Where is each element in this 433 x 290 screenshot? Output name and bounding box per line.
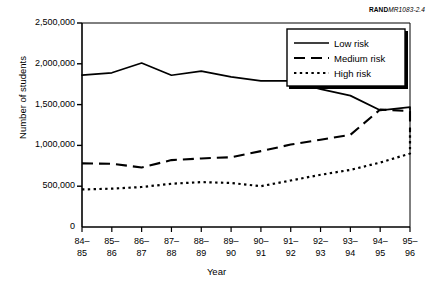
figure-container: RANDMR1083-2.4 Number of students Year L… [0,0,433,290]
x-tick-label-line2: 96 [390,248,430,260]
y-tick-label: 2,500,000 [3,17,75,27]
legend-shadow-right [405,31,408,89]
legend-label-medium-risk: Medium risk [334,53,385,64]
series-line-high-risk [82,133,410,189]
x-tick-label-line1: 95– [390,236,430,248]
legend-label-high-risk: High risk [334,68,371,79]
legend-shadow-bottom [289,86,407,89]
y-tick-label: 2,000,000 [3,58,75,68]
legend-label-low-risk: Low risk [334,38,369,49]
y-tick-label: 1,000,000 [3,139,75,149]
y-tick-label: 0 [3,221,75,231]
x-tick-label: 95–96 [390,236,430,259]
y-tick-label: 1,500,000 [3,99,75,109]
series-line-medium-risk [82,110,410,168]
y-tick-label: 500,000 [3,180,75,190]
